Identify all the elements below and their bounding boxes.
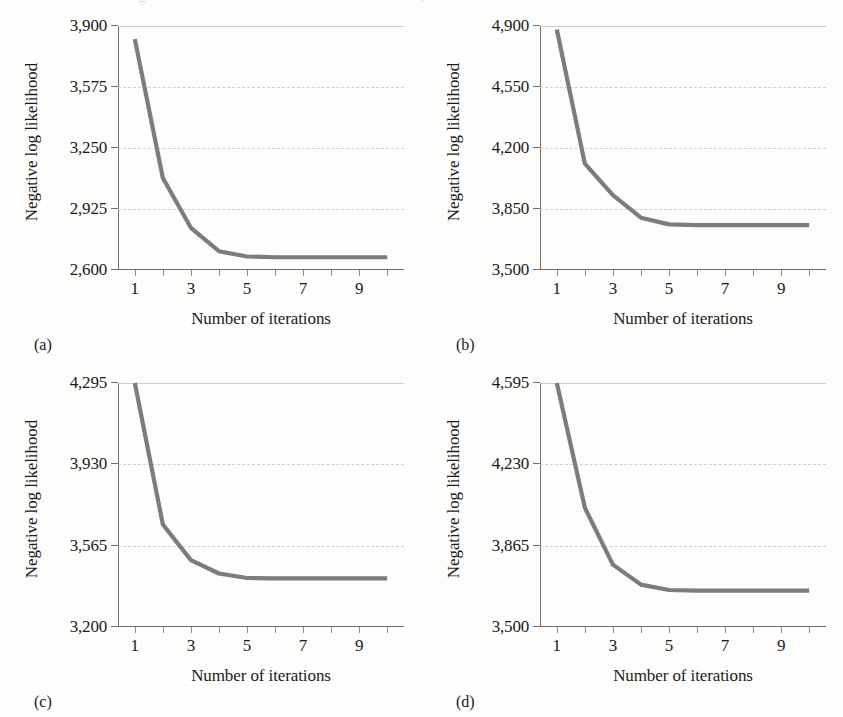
x-tick-mark	[697, 270, 698, 276]
panel-caption-c: (c)	[34, 693, 52, 711]
x-tick-label: 7	[299, 279, 308, 299]
x-tick-label: 1	[131, 636, 140, 656]
line-series	[118, 383, 404, 627]
y-tick-label: 4,295	[70, 373, 118, 393]
x-tick-label: 9	[777, 636, 786, 656]
y-axis-title: Negative log likelihood	[444, 393, 462, 605]
x-tick-mark	[359, 270, 360, 276]
convergence-curve	[135, 383, 387, 578]
y-tick-label: 4,595	[492, 373, 540, 393]
x-tick-mark	[809, 627, 810, 633]
panel-a: Negative log likelihood 3,9003,5753,2502…	[0, 0, 421, 358]
y-tick-label: 3,900	[70, 16, 118, 36]
y-tick-label: 3,500	[492, 260, 540, 280]
panel-caption-d: (d)	[456, 693, 475, 711]
y-tick-label: 3,850	[492, 199, 540, 219]
x-tick-mark	[331, 270, 332, 276]
x-tick-mark	[219, 627, 220, 633]
plot-area-c: 4,2953,9303,5653,200 13579	[118, 383, 404, 627]
x-tick-label: 7	[299, 636, 308, 656]
convergence-curve	[135, 39, 387, 257]
x-tick-label: 7	[721, 636, 730, 656]
x-tick-mark	[641, 627, 642, 633]
x-tick-mark	[781, 627, 782, 633]
x-tick-mark	[219, 270, 220, 276]
x-tick-mark	[191, 627, 192, 633]
x-tick-label: 1	[131, 279, 140, 299]
y-tick-label: 2,600	[70, 260, 118, 280]
x-tick-mark	[135, 270, 136, 276]
x-tick-mark	[275, 627, 276, 633]
x-tick-mark	[247, 627, 248, 633]
x-tick-mark	[163, 270, 164, 276]
plot-area-a: 3,9003,5753,2502,9252,600 13579	[118, 26, 404, 270]
x-tick-mark	[781, 270, 782, 276]
panel-c: Negative log likelihood 4,2953,9303,5653…	[0, 357, 421, 715]
convergence-curve	[557, 29, 809, 225]
line-series	[118, 26, 404, 270]
y-tick-label: 3,565	[70, 536, 118, 556]
y-axis-title: Negative log likelihood	[444, 36, 462, 248]
plot-area-b: 4,9004,5504,2003,8503,500 13579	[540, 26, 826, 270]
x-tick-label: 3	[609, 279, 618, 299]
y-tick-label: 4,550	[492, 77, 540, 97]
x-axis-title: Number of iterations	[118, 309, 404, 329]
x-tick-mark	[359, 627, 360, 633]
x-tick-mark	[669, 627, 670, 633]
panel-caption-b: (b)	[456, 336, 475, 354]
figure-four-panel-convergence: g i Negative log likelihood 3,9003,5753,…	[0, 0, 843, 717]
y-tick-label: 3,250	[70, 138, 118, 158]
x-tick-mark	[557, 270, 558, 276]
x-tick-label: 1	[553, 279, 562, 299]
x-axis-title: Number of iterations	[118, 666, 404, 686]
x-tick-mark	[331, 627, 332, 633]
line-series	[540, 26, 826, 270]
x-tick-mark	[725, 627, 726, 633]
x-tick-mark	[613, 270, 614, 276]
panel-b: Negative log likelihood 4,9004,5504,2003…	[422, 0, 843, 358]
panel-grid: Negative log likelihood 3,9003,5753,2502…	[0, 0, 843, 717]
x-tick-mark	[613, 627, 614, 633]
line-series	[540, 383, 826, 627]
x-tick-mark	[303, 270, 304, 276]
x-tick-label: 1	[553, 636, 562, 656]
panel-caption-a: (a)	[34, 336, 52, 354]
x-tick-label: 9	[355, 636, 364, 656]
x-tick-label: 9	[355, 279, 364, 299]
x-tick-mark	[585, 270, 586, 276]
x-tick-mark	[641, 270, 642, 276]
x-axis-title: Number of iterations	[540, 666, 826, 686]
y-axis-title: Negative log likelihood	[22, 393, 40, 605]
x-tick-mark	[697, 627, 698, 633]
plot-area-d: 4,5954,2303,8653,500 13579	[540, 383, 826, 627]
y-tick-label: 4,900	[492, 16, 540, 36]
panel-d: Negative log likelihood 4,5954,2303,8653…	[422, 357, 843, 715]
x-tick-label: 9	[777, 279, 786, 299]
x-tick-mark	[585, 627, 586, 633]
x-tick-label: 3	[609, 636, 618, 656]
x-tick-label: 3	[187, 279, 196, 299]
y-tick-label: 2,925	[70, 199, 118, 219]
x-tick-mark	[191, 270, 192, 276]
x-tick-label: 5	[665, 636, 674, 656]
x-tick-mark	[303, 627, 304, 633]
y-tick-label: 3,930	[70, 454, 118, 474]
x-tick-mark	[753, 270, 754, 276]
convergence-curve	[557, 383, 809, 591]
x-tick-label: 5	[243, 279, 252, 299]
x-tick-label: 5	[243, 636, 252, 656]
x-tick-mark	[275, 270, 276, 276]
x-tick-mark	[557, 627, 558, 633]
x-tick-label: 7	[721, 279, 730, 299]
y-tick-label: 3,575	[70, 77, 118, 97]
y-tick-label: 3,865	[492, 536, 540, 556]
x-tick-mark	[753, 627, 754, 633]
y-axis-title: Negative log likelihood	[22, 36, 40, 248]
x-tick-label: 5	[665, 279, 674, 299]
x-tick-mark	[669, 270, 670, 276]
x-tick-mark	[725, 270, 726, 276]
x-tick-mark	[135, 627, 136, 633]
x-axis-title: Number of iterations	[540, 309, 826, 329]
x-tick-label: 3	[187, 636, 196, 656]
x-tick-mark	[247, 270, 248, 276]
